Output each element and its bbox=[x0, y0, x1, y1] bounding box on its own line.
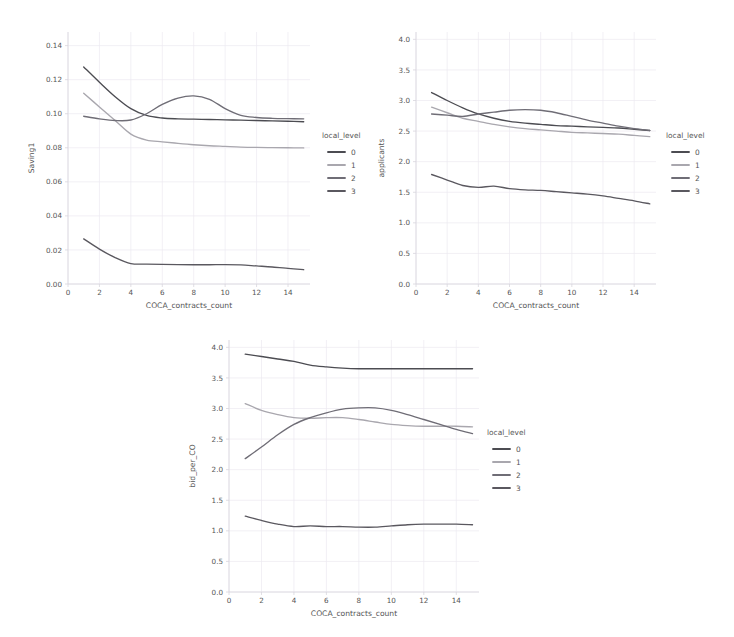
x-tick-label: 4 bbox=[129, 288, 134, 297]
legend-label-local-level-2: 2 bbox=[516, 471, 521, 480]
legend-label-local-level-3: 3 bbox=[351, 187, 356, 196]
legend-title: local_level bbox=[487, 428, 526, 437]
y-tick-label: 3.5 bbox=[212, 374, 223, 383]
y-axis-title: applicants bbox=[377, 138, 386, 177]
legend-label-local-level-1: 1 bbox=[516, 458, 521, 467]
y-tick-label: 0.5 bbox=[212, 557, 223, 566]
legend-label-local-level-1: 1 bbox=[351, 161, 356, 170]
y-tick-label: 0.14 bbox=[46, 41, 62, 50]
x-tick-label: 2 bbox=[445, 288, 450, 297]
y-tick-label: 3.0 bbox=[399, 96, 411, 105]
chart-canvas-panel-saving1: 0.000.020.040.060.080.100.120.1402468101… bbox=[10, 14, 390, 326]
x-tick-label: 14 bbox=[630, 288, 640, 297]
y-tick-label: 1.5 bbox=[399, 188, 410, 197]
legend-title: local_level bbox=[322, 131, 361, 140]
x-tick-label: 8 bbox=[357, 596, 362, 605]
legend-title: local_level bbox=[666, 131, 705, 140]
gridlines-panel-applicants bbox=[416, 32, 656, 284]
legend-panel-bid-per-co: local_level0123 bbox=[487, 428, 526, 493]
y-tick-label: 2.5 bbox=[212, 435, 223, 444]
chart-canvas-panel-applicants: 0.00.51.01.52.02.53.03.54.002468101214CO… bbox=[374, 14, 734, 326]
y-axis-ticks-panel-bid-per-co: 0.00.51.01.52.02.53.03.54.0 bbox=[212, 343, 229, 597]
legend-label-local-level-3: 3 bbox=[516, 484, 521, 493]
x-tick-label: 2 bbox=[97, 288, 102, 297]
x-tick-label: 8 bbox=[538, 288, 543, 297]
x-tick-label: 6 bbox=[160, 288, 165, 297]
y-tick-label: 2.5 bbox=[399, 127, 410, 136]
y-axis-title: Saving1 bbox=[27, 143, 36, 174]
y-axis-title: bid_per_CO bbox=[188, 444, 197, 487]
y-tick-label: 1.0 bbox=[212, 526, 224, 535]
legend-label-local-level-2: 2 bbox=[695, 174, 700, 183]
x-axis-title: COCA_contracts_count bbox=[146, 301, 232, 310]
legend-label-local-level-2: 2 bbox=[351, 174, 356, 183]
x-tick-label: 12 bbox=[252, 288, 261, 297]
y-tick-label: 2.0 bbox=[212, 465, 224, 474]
y-tick-label: 4.0 bbox=[212, 343, 224, 352]
x-tick-label: 0 bbox=[66, 288, 71, 297]
x-tick-label: 4 bbox=[292, 596, 297, 605]
legend-panel-applicants: local_level0123 bbox=[666, 131, 705, 196]
x-tick-label: 12 bbox=[598, 288, 607, 297]
chart-panel-bid-per-co: 0.00.51.01.52.02.53.03.54.002468101214CO… bbox=[177, 322, 557, 634]
y-tick-label: 1.0 bbox=[399, 218, 411, 227]
chart-panel-saving1: 0.000.020.040.060.080.100.120.1402468101… bbox=[10, 14, 390, 326]
legend-label-local-level-0: 0 bbox=[351, 148, 356, 157]
gridlines-panel-saving1 bbox=[68, 32, 310, 284]
y-tick-label: 0.02 bbox=[46, 246, 62, 255]
x-axis-title: COCA_contracts_count bbox=[311, 609, 397, 618]
y-tick-label: 0.06 bbox=[46, 177, 62, 186]
x-tick-label: 8 bbox=[191, 288, 196, 297]
x-tick-label: 14 bbox=[452, 596, 462, 605]
x-axis-ticks-panel-applicants: 02468101214 bbox=[414, 284, 639, 297]
x-tick-label: 0 bbox=[227, 596, 232, 605]
legend-label-local-level-0: 0 bbox=[695, 148, 700, 157]
x-tick-label: 0 bbox=[414, 288, 419, 297]
y-tick-label: 3.0 bbox=[212, 404, 224, 413]
x-axis-title: COCA_contracts_count bbox=[493, 301, 579, 310]
legend-label-local-level-3: 3 bbox=[695, 187, 700, 196]
x-tick-label: 6 bbox=[324, 596, 329, 605]
y-tick-label: 0.12 bbox=[46, 75, 62, 84]
y-axis-ticks-panel-saving1: 0.000.020.040.060.080.100.120.14 bbox=[46, 41, 68, 288]
y-tick-label: 0.0 bbox=[399, 280, 411, 289]
x-tick-label: 10 bbox=[567, 288, 577, 297]
x-tick-label: 14 bbox=[283, 288, 293, 297]
chart-panel-applicants: 0.00.51.01.52.02.53.03.54.002468101214CO… bbox=[374, 14, 734, 326]
y-tick-label: 0.0 bbox=[212, 588, 224, 597]
y-tick-label: 0.04 bbox=[46, 211, 62, 220]
y-tick-label: 0.5 bbox=[399, 249, 410, 258]
legend-panel-saving1: local_level0123 bbox=[322, 131, 361, 196]
y-tick-label: 0.00 bbox=[46, 280, 62, 289]
gridlines-panel-bid-per-co bbox=[229, 340, 479, 592]
x-tick-label: 6 bbox=[507, 288, 512, 297]
y-axis-ticks-panel-applicants: 0.00.51.01.52.02.53.03.54.0 bbox=[399, 35, 416, 289]
x-tick-label: 10 bbox=[221, 288, 231, 297]
y-tick-label: 0.08 bbox=[46, 143, 62, 152]
chart-canvas-panel-bid-per-co: 0.00.51.01.52.02.53.03.54.002468101214CO… bbox=[177, 322, 557, 634]
x-tick-label: 12 bbox=[419, 596, 428, 605]
y-tick-label: 2.0 bbox=[399, 157, 411, 166]
legend-label-local-level-1: 1 bbox=[695, 161, 700, 170]
y-tick-label: 4.0 bbox=[399, 35, 411, 44]
x-axis-ticks-panel-bid-per-co: 02468101214 bbox=[227, 592, 462, 605]
legend-label-local-level-0: 0 bbox=[516, 445, 521, 454]
y-tick-label: 0.10 bbox=[46, 109, 62, 118]
x-tick-label: 2 bbox=[259, 596, 264, 605]
axis-spines-panel-saving1 bbox=[68, 32, 310, 284]
x-tick-label: 10 bbox=[387, 596, 397, 605]
x-tick-label: 4 bbox=[476, 288, 481, 297]
x-axis-ticks-panel-saving1: 02468101214 bbox=[66, 284, 293, 297]
y-tick-label: 1.5 bbox=[212, 496, 223, 505]
y-tick-label: 3.5 bbox=[399, 66, 410, 75]
